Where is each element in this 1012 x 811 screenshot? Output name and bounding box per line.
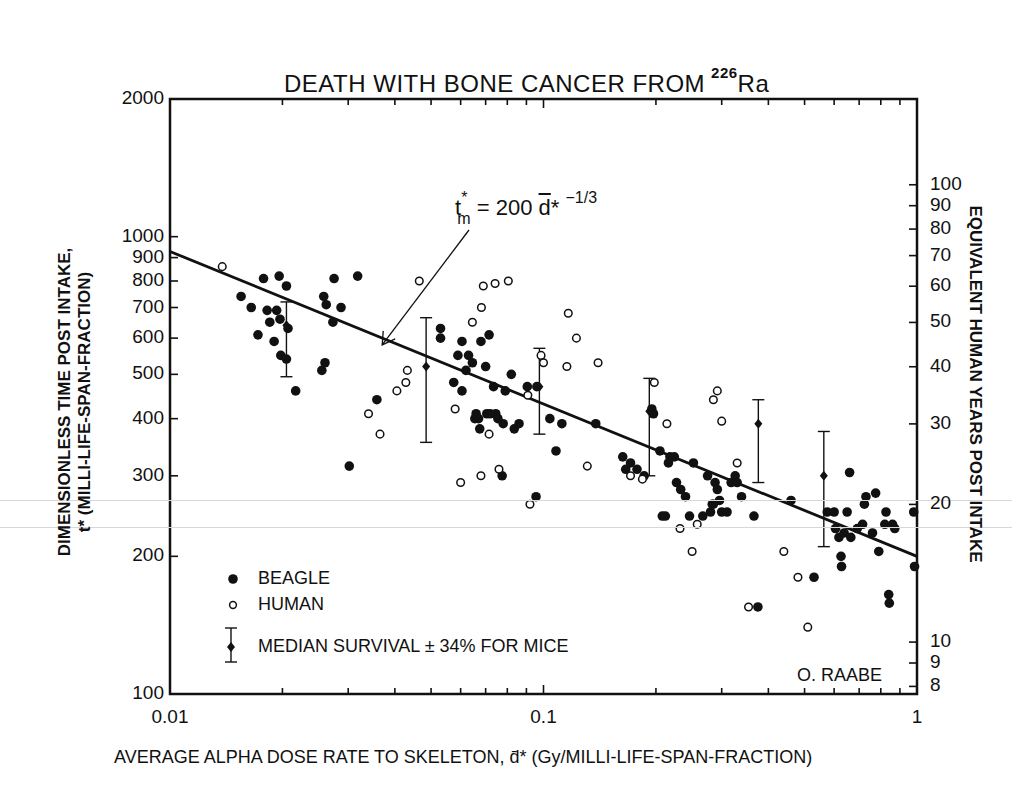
beagle-point: [649, 409, 659, 419]
human-point: [376, 430, 384, 438]
y-tick-label-right: 40: [930, 355, 951, 377]
beagle-point: [457, 386, 467, 396]
human-point: [733, 459, 741, 467]
human-point: [495, 465, 503, 473]
beagle-point: [283, 324, 293, 334]
beagle-point: [344, 461, 354, 471]
beagle-point: [551, 446, 561, 456]
human-point: [393, 387, 401, 395]
chart-title: DEATH WITH BONE CANCER FROM226Ra: [284, 64, 769, 98]
y-tick-label-right: 80: [930, 217, 951, 239]
x-axis-label: AVERAGE ALPHA DOSE RATE TO SKELETON, d̄*…: [114, 747, 812, 768]
human-point: [469, 318, 477, 326]
beagle-point: [329, 274, 339, 284]
beagle-point: [453, 351, 463, 361]
y-tick-label-right: 30: [930, 412, 951, 434]
beagle-point: [321, 300, 331, 310]
eq-star: *: [461, 189, 467, 206]
eq-sub-m: m: [457, 210, 470, 227]
human-point: [526, 500, 534, 508]
beagle-point: [475, 424, 485, 434]
human-point: [651, 379, 659, 387]
fit-line-path: [170, 251, 917, 556]
beagle-point: [753, 602, 763, 612]
human-point: [710, 396, 718, 404]
y-tick-label-left: 700: [104, 296, 164, 318]
beagle-point: [282, 354, 292, 364]
beagle-point: [689, 458, 699, 468]
title-text: DEATH WITH BONE CANCER FROM: [284, 70, 705, 97]
beagle-point: [618, 452, 628, 462]
beagle-point: [557, 419, 567, 429]
beagle-point: [884, 598, 894, 608]
beagle-point: [655, 446, 665, 456]
human-point: [794, 573, 802, 581]
human-point: [505, 277, 513, 285]
beagle-point: [831, 524, 841, 534]
x-tick-label: 0.1: [504, 706, 584, 728]
human-point: [415, 277, 423, 285]
legend-beagle-marker: [228, 574, 238, 584]
human-point: [524, 391, 532, 399]
beagle-point: [881, 507, 891, 517]
legend-human-marker: [230, 602, 237, 609]
beagle-point: [890, 524, 900, 534]
beagle-point: [507, 370, 517, 380]
eq-star2: *: [551, 195, 560, 220]
human-point: [491, 280, 499, 288]
y-tick-label-right: 9: [930, 651, 941, 673]
y-axis-label-line2: t* (MILLI-LIFE-SPAN-FRACTION): [75, 142, 95, 662]
isotope-symbol: Ra: [738, 70, 770, 97]
beagle-point: [591, 419, 601, 429]
beagle-point: [282, 281, 292, 291]
beagle-point: [732, 478, 742, 488]
y-tick-label-left: 400: [104, 407, 164, 429]
beagle-point: [262, 306, 272, 316]
beagle-point: [484, 330, 494, 340]
beagle-point: [275, 314, 285, 324]
x-tick-label: 1: [877, 706, 957, 728]
beagle-point: [253, 330, 263, 340]
beagle-point: [265, 317, 275, 327]
legend-human-label: HUMAN: [258, 594, 324, 615]
y-tick-label-right: 100: [930, 173, 962, 195]
beagle-point: [523, 382, 533, 392]
y-tick-label-left: 1000: [104, 225, 164, 247]
beagle-point: [320, 358, 330, 368]
human-point: [627, 472, 635, 480]
median-diamond: [227, 642, 235, 652]
beagle-point: [722, 507, 732, 517]
y-axis-label-right: EQUIVALENT HUMAN YEARS POST INTAKE: [965, 154, 985, 614]
human-point: [402, 379, 410, 387]
y-tick-label-left: 800: [104, 269, 164, 291]
scan-artifact-line: [0, 527, 1012, 528]
author-credit: O. RAABE: [797, 665, 882, 686]
beagle-point: [461, 366, 471, 376]
beagle-points: [236, 271, 919, 611]
beagle-point: [809, 572, 819, 582]
beagle-point: [532, 382, 542, 392]
x-tick-label: 0.01: [130, 706, 210, 728]
beagle-point: [910, 562, 920, 572]
beagle-point: [319, 292, 329, 302]
human-point: [718, 417, 726, 425]
human-point: [804, 623, 812, 631]
beagle-point: [274, 271, 284, 281]
eq-exponent: −1/3: [566, 189, 598, 206]
beagle-point: [336, 303, 346, 313]
fit-equation: t*m = 200 d* −1/3: [455, 195, 597, 221]
median-diamond: [820, 471, 828, 481]
beagle-point: [871, 488, 881, 498]
beagle-point: [884, 590, 894, 600]
eq-d-bar: d: [539, 195, 551, 220]
beagle-point: [514, 419, 524, 429]
human-point: [540, 359, 548, 367]
human-point: [745, 603, 753, 611]
human-point: [404, 367, 412, 375]
beagle-point: [436, 324, 446, 334]
y-tick-label-right: 8: [930, 674, 941, 696]
beagle-point: [481, 362, 491, 372]
human-point: [573, 334, 581, 342]
human-point: [457, 479, 465, 487]
beagle-point: [449, 378, 459, 388]
